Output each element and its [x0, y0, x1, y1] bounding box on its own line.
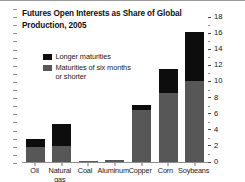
left-minor-tick: [13, 9, 17, 10]
bar-group-soybeans: [185, 17, 204, 162]
y-axis-tick-label: 16: [214, 28, 222, 37]
y-axis-tick-label: 14: [214, 44, 222, 53]
y-axis-minor-tick: [208, 73, 210, 74]
y-axis-minor-tick: [208, 138, 210, 139]
left-minor-tick: [13, 50, 17, 51]
bar-segment-short-maturities: [26, 147, 45, 162]
left-minor-tick: [13, 58, 17, 59]
y-axis-tick-4: 4: [208, 130, 245, 131]
left-minor-tick: [13, 147, 17, 148]
bar-group-oil: [26, 17, 45, 162]
left-minor-ticks: [13, 9, 19, 164]
left-minor-tick: [13, 131, 17, 132]
left-minor-tick: [13, 122, 17, 123]
y-axis-tick-label: 12: [214, 60, 222, 69]
legend-label-longer-maturities: Longer maturities: [56, 52, 111, 61]
x-axis-label-natural-gas: Natural gas: [47, 166, 72, 182]
left-minor-tick: [13, 139, 17, 140]
y-axis-tick-16: 16: [208, 33, 245, 34]
y-axis-minor-tick: [208, 122, 210, 123]
y-axis-minor-tick: [208, 154, 210, 155]
left-minor-tick: [13, 155, 17, 156]
x-axis-label-coal: Coal: [72, 166, 97, 182]
bar-group-corn: [159, 17, 178, 162]
y-axis-tick-12: 12: [208, 65, 245, 66]
plot-area: [22, 17, 208, 163]
legend-item-short-maturities: Maturities of six months or shorter: [43, 63, 163, 81]
y-axis-tick-label: 18: [214, 12, 222, 21]
bar-series-group: [22, 17, 208, 162]
y-axis-minor-tick: [208, 41, 210, 42]
bar-segment-longer-maturities: [26, 139, 45, 146]
left-minor-tick: [13, 74, 17, 75]
y-axis-tick-label: 8: [214, 93, 218, 102]
y-axis-tick-mark: [208, 65, 211, 66]
bar-segment-short-maturities: [159, 93, 178, 162]
left-minor-tick: [13, 90, 17, 91]
y-axis-tick-2: 2: [208, 146, 245, 147]
x-axis-labels: OilNatural gasCoalAluminumCopperCornSoyb…: [22, 166, 208, 182]
y-axis-tick-6: 6: [208, 114, 245, 115]
left-minor-tick: [13, 33, 17, 34]
left-minor-tick: [13, 163, 17, 164]
left-minor-tick: [13, 82, 17, 83]
x-axis-label-corn: Corn: [153, 166, 178, 182]
left-minor-tick: [13, 114, 17, 115]
legend-item-longer-maturities: Longer maturities: [43, 52, 163, 61]
bar-segment-short-maturities: [132, 110, 151, 162]
left-minor-tick: [13, 66, 17, 67]
y-axis-tick-mark: [208, 81, 211, 82]
bar-group-aluminum: [105, 17, 124, 162]
legend-label-short-maturities-line-1: Maturities of six months: [56, 63, 131, 72]
x-axis-label-soybeans: Soybeans: [178, 166, 208, 182]
x-axis-label-copper: Copper: [128, 166, 153, 182]
y-axis-tick-label: 10: [214, 76, 222, 85]
y-axis-tick-0: 0: [208, 162, 245, 163]
x-axis-label-oil: Oil: [22, 166, 47, 182]
y-axis-tick-mark: [208, 17, 211, 18]
y-axis-tick-mark: [208, 162, 211, 163]
bar-segment-longer-maturities: [52, 124, 71, 146]
y-axis-tick-label: 0: [214, 157, 218, 166]
y-axis-tick-8: 8: [208, 98, 245, 99]
y-axis: 024681012141618: [208, 17, 245, 164]
legend-label-short-maturities-line-2: or shorter: [56, 72, 131, 81]
y-axis-tick-label: 4: [214, 125, 218, 134]
bar-segment-short-maturities: [185, 81, 204, 162]
y-axis-tick-mark: [208, 145, 211, 146]
chart-container: Futures Open Interests as Share of Globa…: [0, 0, 245, 182]
legend-swatch-longer-maturities: [43, 54, 52, 60]
y-axis-tick-label: 6: [214, 109, 218, 118]
bar-segment-short-maturities: [52, 146, 71, 162]
y-axis-minor-tick: [208, 106, 210, 107]
y-axis-tick-mark: [208, 113, 211, 114]
y-axis-tick-10: 10: [208, 81, 245, 82]
x-axis-line: [22, 162, 208, 163]
y-axis-tick-mark: [208, 33, 211, 34]
y-axis-tick-label: 2: [214, 141, 218, 150]
y-axis-minor-tick: [208, 57, 210, 58]
bar-group-natural-gas: [52, 17, 71, 162]
legend-label-short-maturities: Maturities of six months or shorter: [56, 63, 131, 81]
left-minor-tick: [13, 25, 17, 26]
left-minor-tick: [13, 17, 17, 18]
y-axis-tick-14: 14: [208, 49, 245, 50]
y-axis-tick-mark: [208, 49, 211, 50]
bar-segment-longer-maturities: [185, 32, 204, 82]
chart-legend: Longer maturities Maturities of six mont…: [43, 52, 163, 84]
y-axis-tick-mark: [208, 129, 211, 130]
y-axis-tick-18: 18: [208, 17, 245, 18]
left-minor-tick: [13, 41, 17, 42]
y-axis-tick-mark: [208, 97, 211, 98]
bar-group-copper: [132, 17, 151, 162]
y-axis-minor-tick: [208, 25, 210, 26]
y-axis-minor-tick: [208, 90, 210, 91]
bar-group-coal: [79, 17, 98, 162]
x-axis-label-aluminum: Aluminum: [98, 166, 128, 182]
legend-swatch-short-maturities: [43, 65, 52, 71]
left-minor-tick: [13, 98, 17, 99]
left-minor-tick: [13, 106, 17, 107]
